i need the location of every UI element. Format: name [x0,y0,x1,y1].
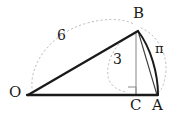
length-label-BC: 3 [113,52,122,66]
vertex-label-C: C [130,98,141,113]
arc-length-label-pi: π [155,42,164,55]
vertex-label-B: B [133,6,144,21]
right-angle-marker-at-C [128,87,136,95]
length-label-OB: 6 [57,28,66,42]
geometry-figure: O B C A 6 3 π [0,0,180,117]
vertex-label-A: A [152,98,163,113]
vertex-label-O: O [9,85,21,100]
